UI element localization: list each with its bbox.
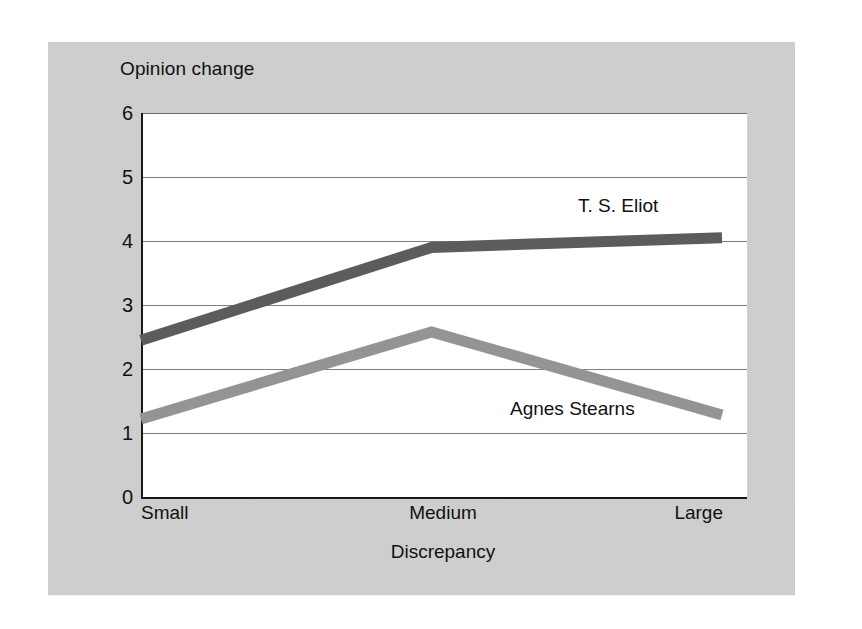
y-tick-3: 3	[105, 295, 133, 315]
x-tick-large: Large	[674, 503, 723, 524]
plot-area	[141, 113, 747, 499]
y-tick-2: 2	[105, 359, 133, 379]
y-tick-0: 0	[105, 487, 133, 507]
gridline-y-2	[143, 369, 747, 370]
gridline-y-1	[143, 433, 747, 434]
y-axis-tick-labels: 0123456	[101, 113, 133, 497]
x-axis-title: Discrepancy	[141, 541, 745, 563]
gridline-y-5	[143, 177, 747, 178]
gridline-y-3	[143, 305, 747, 306]
x-axis-tick-labels: Small Medium Large	[141, 503, 745, 533]
x-tick-small: Small	[141, 503, 189, 524]
gridline-y-4	[143, 241, 747, 242]
series-label-t-s-eliot: T. S. Eliot	[578, 195, 658, 217]
gridline-y-6	[143, 113, 747, 114]
y-tick-6: 6	[105, 103, 133, 123]
y-tick-1: 1	[105, 423, 133, 443]
y-tick-4: 4	[105, 231, 133, 251]
y-axis-title: Opinion change	[120, 58, 255, 80]
x-tick-medium: Medium	[409, 503, 477, 524]
y-tick-5: 5	[105, 167, 133, 187]
series-label-agnes-stearns: Agnes Stearns	[510, 398, 635, 420]
